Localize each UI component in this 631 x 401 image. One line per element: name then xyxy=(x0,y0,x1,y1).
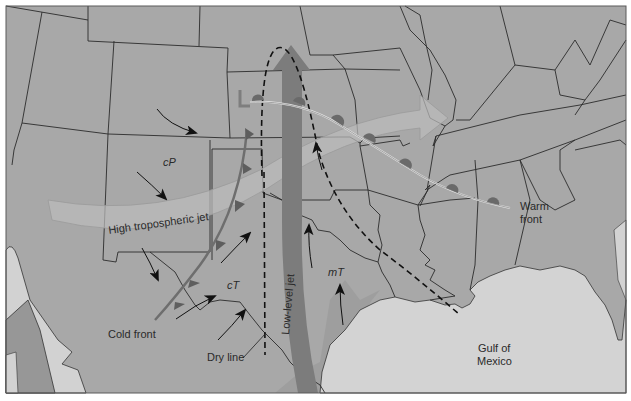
air-mass-cp-label: cP xyxy=(163,156,177,168)
gulf-label-1: Gulf of xyxy=(478,342,511,354)
cold-front-label: Cold front xyxy=(108,328,156,340)
warm-front-label-1: Warm xyxy=(520,200,549,212)
weather-map: cP cT mT Cold front Dry line Warm front … xyxy=(0,0,631,401)
dry-line-label: Dry line xyxy=(207,351,244,363)
map-canvas: cP cT mT Cold front Dry line Warm front … xyxy=(0,0,631,401)
gulf-label-2: Mexico xyxy=(477,355,512,367)
air-mass-mt-label: mT xyxy=(328,266,345,278)
air-mass-ct-label: cT xyxy=(227,279,241,291)
pacific-water xyxy=(6,352,18,393)
warm-front-label-2: front xyxy=(520,213,542,225)
